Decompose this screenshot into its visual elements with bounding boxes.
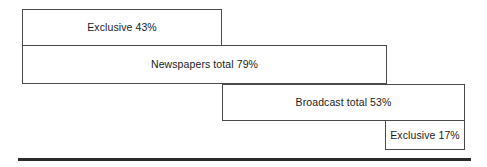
bar-label: Exclusive 43% <box>87 22 157 33</box>
bar-label: Newspapers total 79% <box>151 59 258 70</box>
bar-exclusive-17: Exclusive 17% <box>385 120 465 150</box>
bar-exclusive-43: Exclusive 43% <box>22 9 222 46</box>
bar-broadcast-total-53: Broadcast total 53% <box>222 84 465 121</box>
stepped-bar-chart: Exclusive 43% Newspapers total 79% Broad… <box>0 0 487 167</box>
baseline-rule <box>18 158 471 161</box>
bar-label: Exclusive 17% <box>390 130 460 141</box>
bar-label: Broadcast total 53% <box>296 97 392 108</box>
bar-newspapers-total-79: Newspapers total 79% <box>22 45 387 84</box>
